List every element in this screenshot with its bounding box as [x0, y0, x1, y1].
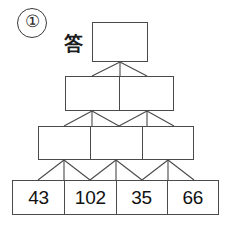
pyramid-cell-base-4: 66: [167, 181, 218, 214]
pyramid-row-2: [65, 76, 174, 111]
pyramid-cell-base-3: 35: [116, 181, 167, 214]
pyramid-cell-row3-1[interactable]: [39, 127, 90, 159]
pyramid-cell-row3-3[interactable]: [142, 127, 193, 159]
pyramid-cell-row2-2[interactable]: [119, 77, 173, 110]
pyramid-row-base: 43 102 35 66: [12, 180, 219, 215]
pyramid-row-top: [92, 22, 148, 62]
pyramid-cell-base-2: 102: [64, 181, 115, 214]
pyramid-cell-row3-2[interactable]: [90, 127, 141, 159]
pyramid-cell-row2-1[interactable]: [66, 77, 119, 110]
pyramid-row-3: [38, 126, 194, 160]
pyramid-cell-top-1[interactable]: [93, 23, 147, 61]
addition-pyramid-worksheet: ① 答 43 102 35 66: [0, 0, 230, 228]
answer-label: 答: [60, 31, 86, 57]
pyramid-cell-base-1: 43: [13, 181, 64, 214]
problem-number-badge: ①: [17, 8, 47, 38]
